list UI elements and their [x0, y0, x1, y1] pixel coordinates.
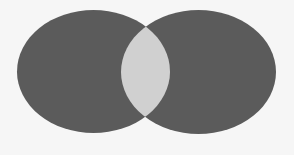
venn-diagram-svg — [0, 0, 294, 155]
venn-diagram — [0, 0, 294, 155]
